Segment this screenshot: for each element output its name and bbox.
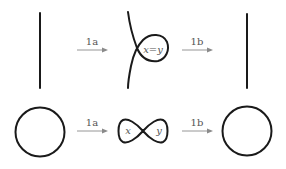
lobe-label-y: y bbox=[155, 125, 162, 136]
kink-strand: x=y bbox=[128, 12, 168, 88]
arrow-label: 1a bbox=[86, 117, 98, 128]
arrow-label: 1b bbox=[191, 117, 204, 128]
arrow-1b-bottom: 1b bbox=[182, 117, 213, 133]
arrow-1b-top: 1b bbox=[182, 36, 213, 52]
unknot-circle-left bbox=[16, 108, 65, 157]
kink-label: x=y bbox=[143, 44, 163, 55]
lobe-label-x: x bbox=[125, 125, 131, 136]
arrow-1a-bottom: 1a bbox=[77, 117, 108, 133]
reidemeister-diagram: 1a x=y 1b 1a x y 1b bbox=[0, 0, 286, 169]
unknot-circle-right bbox=[223, 107, 272, 156]
arrow-label: 1b bbox=[191, 36, 204, 47]
arrow-label: 1a bbox=[86, 36, 98, 47]
figure-eight: x y bbox=[119, 120, 168, 143]
arrow-1a-top: 1a bbox=[77, 36, 108, 52]
